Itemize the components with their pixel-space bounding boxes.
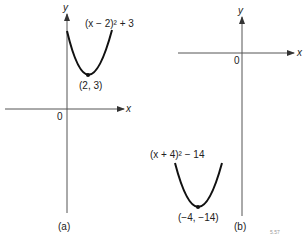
panel-b-vertex-point	[196, 205, 200, 209]
figure-canvas	[0, 0, 306, 239]
panel-a-x-label: x	[126, 104, 131, 114]
panel-b-x-label: x	[297, 48, 302, 58]
panel-a-graph	[5, 14, 124, 213]
panel-a-vertex-label: (2, 3)	[79, 81, 102, 91]
panel-b-origin-label: 0	[234, 56, 240, 66]
panel-b-y-label: y	[238, 6, 243, 16]
panel-b-vertex-label: (−4, −14)	[178, 213, 219, 223]
panel-b-parabola	[175, 163, 222, 207]
panel-b-caption: (b)	[234, 222, 246, 232]
figure-number-mark: 5.57	[270, 230, 280, 235]
panel-a-equation: (x − 2)² + 3	[85, 19, 134, 29]
panel-b-graph	[175, 17, 294, 216]
panel-a-caption: (a)	[58, 222, 70, 232]
panel-a-parabola	[67, 30, 112, 75]
panel-a-origin-label: 0	[57, 112, 63, 122]
panel-a-vertex-point	[86, 73, 90, 77]
panel-b-equation: (x + 4)² − 14	[150, 150, 204, 160]
panel-a-y-label: y	[63, 3, 68, 13]
